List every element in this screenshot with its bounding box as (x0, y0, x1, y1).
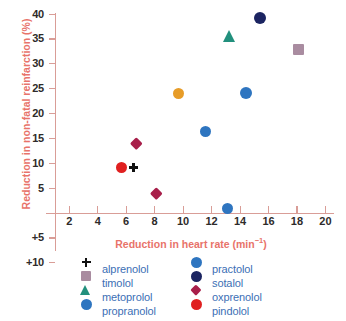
x-axis-tick-label: 4 (86, 215, 110, 227)
legend-label: practolol (212, 263, 253, 275)
legend-swatch-propranolol (86, 304, 102, 318)
y-axis-tick (49, 38, 55, 39)
legend-item-pindolol: pindolol (196, 304, 262, 318)
circle-marker-icon (191, 299, 202, 310)
x-axis-tick-label: 16 (257, 215, 281, 227)
x-axis-tick-label: 12 (200, 215, 224, 227)
plot-area: 403530252015105+5+10 2468101214161820 Re… (0, 0, 346, 260)
square-marker-icon (81, 271, 91, 281)
circle-marker-icon (240, 87, 252, 99)
x-axis-tick (97, 206, 98, 213)
scatter-chart-figure: 403530252015105+5+10 2468101214161820 Re… (0, 0, 346, 321)
x-axis-tick-label: 10 (171, 215, 195, 227)
x-axis-tick (183, 206, 184, 213)
x-axis-tick-label: 14 (228, 215, 252, 227)
x-axis-tick-label: 2 (57, 215, 81, 227)
x-axis-tick-label: 18 (285, 215, 309, 227)
legend-label: propranolol (102, 305, 156, 317)
legend-item-propranolol: propranolol (86, 304, 156, 318)
y-axis-tick (49, 14, 55, 15)
x-axis-tick (268, 206, 269, 213)
legend-column-left: alprenololtimololmetoprololpropranolol (86, 262, 156, 318)
legend-item-practolol: practolol (196, 262, 262, 276)
y-axis-tick-label: +5 (6, 231, 44, 243)
legend-item-timolol: timolol (86, 276, 156, 290)
y-axis-tick (49, 138, 55, 139)
y-axis-tick (49, 88, 55, 89)
triangle-marker-icon (223, 30, 235, 42)
x-axis-tick (69, 206, 70, 213)
x-axis-tick (126, 206, 127, 213)
legend-label: pindolol (212, 305, 249, 317)
y-axis-tick (49, 113, 55, 114)
circle-marker-icon (200, 126, 211, 137)
y-axis-line (55, 13, 56, 251)
legend-swatch-pindolol (196, 304, 212, 318)
legend-label: metoprolol (102, 291, 152, 303)
legend-label: timolol (102, 277, 133, 289)
legend-item-sotalol: sotalol (196, 276, 262, 290)
circle-marker-icon (116, 162, 127, 173)
plus-icon (132, 163, 135, 172)
diamond-marker-icon (150, 188, 162, 200)
legend-column-right: practololsotaloloxprenololpindolol (196, 262, 262, 318)
x-axis-tick (154, 206, 155, 213)
square-marker-icon (293, 44, 304, 55)
legend-item-alprenolol: alprenolol (86, 262, 156, 276)
triangle-marker-icon (80, 285, 90, 295)
circle-marker-icon (222, 203, 233, 214)
plus-icon (85, 258, 88, 267)
legend-item-oxprenolol: oxprenolol (196, 290, 262, 304)
circle-marker-icon (191, 257, 202, 268)
x-axis-title: Reduction in heart rate (min−1) (46, 236, 336, 250)
y-axis-title: Reduction in non-fatal reinfarction (%) (20, 4, 32, 224)
x-axis-tick (325, 206, 326, 213)
x-axis-tick (211, 206, 212, 213)
x-axis-tick (296, 206, 297, 213)
chart-legend: alprenololtimololmetoprololpropranolol p… (0, 262, 346, 321)
x-axis-tick-label: 6 (114, 215, 138, 227)
legend-label: oxprenolol (212, 291, 262, 303)
y-axis-tick (49, 188, 55, 189)
y-axis-tick (49, 163, 55, 164)
x-axis-tick-label: 8 (143, 215, 167, 227)
legend-item-metoprolol: metoprolol (86, 290, 156, 304)
diamond-marker-icon (130, 137, 142, 149)
legend-label: alprenolol (102, 263, 149, 275)
legend-label: sotalol (212, 277, 243, 289)
circle-marker-icon (173, 88, 184, 99)
y-axis-tick (49, 63, 55, 64)
circle-marker-icon (81, 299, 92, 310)
circle-marker-icon (191, 271, 202, 282)
x-axis-tick-label: 20 (313, 215, 337, 227)
y-axis-tick-label-wrap: +5 (0, 231, 44, 243)
x-axis-tick (240, 206, 241, 213)
circle-marker-icon (254, 12, 266, 24)
